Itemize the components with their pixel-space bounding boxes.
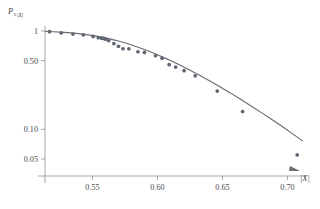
data-point [59,31,63,35]
data-point [143,51,147,55]
axes-group [38,26,306,183]
survival-function-plot: 0.550.600.650.70 10.500.100.05 P>|X| |X| [0,0,320,209]
data-point [117,44,121,48]
data-point [182,69,186,73]
data-point [154,54,158,58]
x-tick-label: 0.55 [85,183,99,192]
y-tick-label: 0.10 [24,125,38,134]
data-point [215,89,219,93]
data-point [112,42,116,46]
y-axis-label: P>|X| [7,7,24,18]
y-tick-group: 10.500.100.05 [24,27,45,164]
data-point [82,33,86,37]
y-axis-label-sub: >|X| [13,12,24,18]
x-tick-label: 0.65 [215,183,229,192]
data-point [174,65,178,69]
data-point [193,74,197,78]
x-tick-group: 0.550.600.650.70 [85,176,294,192]
data-point [96,36,100,40]
y-tick-label: 0.50 [24,57,38,66]
y-tick-label: 0.05 [24,155,38,164]
x-axis-arrow-icon [289,166,300,171]
data-point [160,56,164,60]
data-point [295,153,299,157]
data-point [71,32,75,36]
x-axis-label: |X| [300,174,310,183]
data-point [107,39,111,43]
fitted-curve [45,31,303,141]
data-point [241,110,245,114]
axis-arrow-group [289,166,300,171]
data-point-group [48,30,299,157]
data-point [127,47,131,51]
data-point [91,35,95,39]
y-tick-label: 1 [34,27,38,36]
data-point [136,50,140,54]
data-point [104,37,108,41]
x-tick-label: 0.60 [150,183,164,192]
data-point [121,47,125,51]
x-tick-label: 0.70 [280,183,294,192]
data-point [167,63,171,67]
data-point [48,30,52,34]
